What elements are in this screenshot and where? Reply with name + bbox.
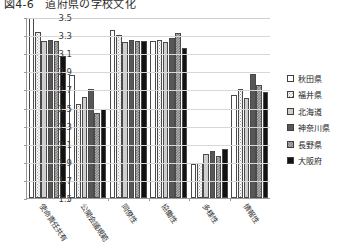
- bar[interactable]: [222, 149, 227, 198]
- legend-label: 北海道: [298, 106, 322, 117]
- legend-label: 神奈川県: [298, 122, 330, 133]
- x-axis-label-6: 情報性: [241, 201, 262, 225]
- chart-legend: 秋田県福井県北海道神奈川県長野県大阪府: [287, 70, 345, 169]
- legend-swatch-icon: [287, 157, 294, 164]
- legend-swatch-icon: [287, 141, 294, 148]
- y-axis-tick-label: 2.3: [48, 122, 72, 132]
- y-axis-tick-mark: [24, 90, 27, 91]
- legend-item-2[interactable]: 福井県: [287, 87, 345, 104]
- bar[interactable]: [54, 41, 59, 199]
- bar[interactable]: [203, 154, 208, 198]
- bar[interactable]: [41, 41, 46, 199]
- bar[interactable]: [141, 41, 146, 198]
- y-axis-tick-label: 3.5: [48, 13, 72, 23]
- legend-item-1[interactable]: 秋田県: [287, 70, 345, 87]
- bar[interactable]: [250, 74, 255, 198]
- y-axis-tick-mark: [24, 72, 27, 73]
- y-axis-tick-mark: [24, 181, 27, 182]
- y-axis-tick-mark: [24, 109, 27, 110]
- bar[interactable]: [169, 38, 174, 198]
- x-axis-tick: 協働性: [148, 199, 189, 246]
- x-axis-label-5: 多様性: [200, 201, 221, 225]
- bar[interactable]: [150, 41, 155, 198]
- legend-swatch-icon: [287, 124, 294, 131]
- y-axis-tick-label: 2.1: [48, 140, 72, 150]
- y-axis-tick-label: 2.5: [48, 104, 72, 114]
- bar[interactable]: [101, 109, 106, 198]
- y-axis-tick-mark: [24, 127, 27, 128]
- bar[interactable]: [163, 42, 168, 198]
- y-axis-tick-label: 3.1: [48, 49, 72, 59]
- x-axis-tick: 多様性: [189, 199, 230, 246]
- bar[interactable]: [231, 95, 236, 199]
- legend-item-3[interactable]: 北海道: [287, 103, 345, 120]
- y-axis-tick-mark: [24, 36, 27, 37]
- y-axis-tick-label: 1.7: [48, 176, 72, 186]
- bar[interactable]: [35, 32, 40, 199]
- bar[interactable]: [182, 48, 187, 198]
- bar[interactable]: [210, 151, 215, 198]
- bar[interactable]: [82, 97, 87, 198]
- y-axis-tick-mark: [24, 145, 27, 146]
- bar-chart: 図4-6 道府県の学校文化 使命責任共有公開会議規範同僚性協働性多様性情報性 秋…: [0, 0, 346, 246]
- legend-label: 福井県: [298, 89, 322, 100]
- legend-swatch-icon: [287, 75, 294, 82]
- legend-swatch-icon: [287, 91, 294, 98]
- bar[interactable]: [175, 33, 180, 198]
- y-axis-tick-label: 2.7: [48, 85, 72, 95]
- y-axis-tick-mark: [24, 18, 27, 19]
- y-axis-tick-label: 1.5: [48, 194, 72, 204]
- bar[interactable]: [157, 40, 162, 198]
- bar[interactable]: [48, 40, 53, 198]
- y-axis-tick-mark: [24, 163, 27, 164]
- y-axis-tick-label: 3.3: [48, 31, 72, 41]
- bar[interactable]: [122, 42, 127, 198]
- x-axis-labels: 使命責任共有公開会議規範同僚性協働性多様性情報性: [26, 199, 270, 246]
- legend-item-4[interactable]: 神奈川県: [287, 120, 345, 137]
- x-axis-tick: 情報性: [229, 199, 270, 246]
- y-axis-tick-mark: [24, 54, 27, 55]
- legend-item-5[interactable]: 長野県: [287, 136, 345, 153]
- legend-label: 大阪府: [298, 155, 322, 166]
- x-axis-tick: 公開会議規範: [67, 199, 108, 246]
- bar[interactable]: [76, 104, 81, 199]
- legend-label: 秋田県: [298, 73, 322, 84]
- bar[interactable]: [135, 41, 140, 199]
- legend-label: 長野県: [298, 139, 322, 150]
- legend-swatch-icon: [287, 108, 294, 115]
- x-axis-label-3: 同僚性: [119, 201, 140, 225]
- bar[interactable]: [129, 40, 134, 198]
- bar[interactable]: [244, 98, 249, 198]
- legend-item-6[interactable]: 大阪府: [287, 153, 345, 170]
- y-axis-tick-label: 2.9: [48, 67, 72, 77]
- x-axis-tick: 同僚性: [107, 199, 148, 246]
- bar[interactable]: [116, 35, 121, 198]
- x-axis-tick: 使命責任共有: [26, 199, 67, 246]
- y-axis-tick-label: 1.9: [48, 158, 72, 168]
- x-axis-label-4: 協働性: [159, 201, 180, 225]
- chart-title: 図4-6 道府県の学校文化: [4, 0, 136, 11]
